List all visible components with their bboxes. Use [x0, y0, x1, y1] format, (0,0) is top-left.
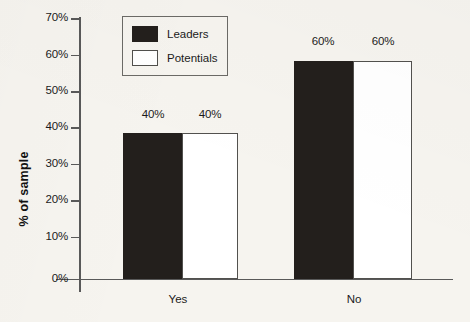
- x-category-label-no: No: [324, 293, 384, 305]
- bar-value-yes-leaders: 40%: [122, 108, 184, 120]
- legend-item-potentials[interactable]: Potentials: [132, 49, 218, 67]
- y-tick-mark: [71, 55, 80, 57]
- bar-no-leaders[interactable]: [294, 61, 353, 279]
- bar-value-yes-potentials: 40%: [179, 108, 241, 120]
- y-tick-mark: [71, 237, 80, 239]
- y-tick-label: 20%: [28, 194, 68, 206]
- chart-legend: Leaders Potentials: [122, 16, 228, 76]
- bar-chart-plot-area: % of sample 70% 60% 50% 40% 30% 20%: [0, 0, 470, 322]
- bar-yes-leaders[interactable]: [123, 133, 182, 279]
- y-tick-label: 0%: [28, 273, 68, 285]
- y-tick-mark: [71, 91, 80, 93]
- y-tick-label: 70%: [28, 12, 68, 24]
- y-tick-mark: [71, 18, 80, 20]
- legend-item-leaders[interactable]: Leaders: [132, 25, 209, 43]
- bar-value-no-potentials: 60%: [352, 35, 414, 47]
- y-tick-label: 60%: [28, 49, 68, 61]
- y-tick-mark: [71, 164, 80, 166]
- bar-yes-potentials[interactable]: [182, 133, 238, 279]
- y-tick-label: 30%: [28, 158, 68, 170]
- legend-label-leaders: Leaders: [167, 28, 209, 40]
- legend-label-potentials: Potentials: [167, 52, 218, 64]
- bar-value-no-leaders: 60%: [292, 35, 354, 47]
- y-tick-label: 10%: [28, 231, 68, 243]
- y-tick-label: 50%: [28, 85, 68, 97]
- chart-page: % of sample 70% 60% 50% 40% 30% 20%: [0, 0, 470, 322]
- y-tick-mark: [71, 127, 80, 129]
- y-tick-label: 40%: [28, 121, 68, 133]
- legend-swatch-outlined-icon: [132, 50, 158, 66]
- y-tick-mark: [71, 200, 80, 202]
- y-axis-line: [79, 17, 81, 292]
- x-category-label-yes: Yes: [148, 293, 208, 305]
- legend-swatch-filled-icon: [132, 26, 158, 42]
- bar-no-potentials[interactable]: [353, 61, 412, 279]
